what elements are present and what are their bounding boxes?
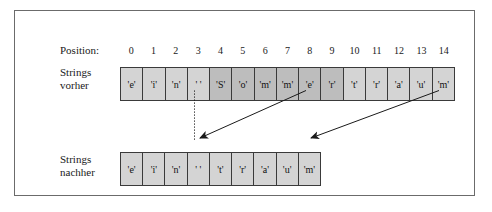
position-index: 14 [433,44,455,58]
position-index: 2 [165,44,187,58]
position-index: 11 [366,44,388,58]
string-cell: 'o' [232,68,254,100]
string-cell: 'S' [210,68,232,100]
strings-after-label: Strings nachher [60,153,95,179]
position-index: 8 [299,44,321,58]
string-cell: 'm' [299,153,320,185]
position-index: 9 [321,44,343,58]
string-cell: 't' [210,153,232,185]
diagram-screenshot: Position: Strings vorher Strings nachher… [0,0,492,212]
position-index: 5 [232,44,254,58]
position-index: 3 [187,44,209,58]
string-cell: 'm' [277,68,299,100]
string-cell: 'n' [165,153,187,185]
string-cell: 'a' [388,68,410,100]
position-index: 12 [388,44,410,58]
string-cell: 'u' [410,68,432,100]
position-index: 6 [254,44,276,58]
string-cell: 'a' [254,153,276,185]
string-cell: 'r' [366,68,388,100]
string-cell: 'r' [321,68,343,100]
position-index: 13 [410,44,432,58]
position-row-label: Position: [60,44,99,57]
string-cell: 'm' [255,68,277,100]
string-cell: 'u' [277,153,299,185]
string-array-before: 'e''i''n'' ''S''o''m''m''e''r''t''r''a''… [120,67,455,101]
position-index-list: 01234567891011121314 [120,44,455,58]
position-index: 0 [120,44,142,58]
string-cell: 't' [344,68,366,100]
position-index: 1 [142,44,164,58]
string-cell: 'i' [143,68,165,100]
string-cell: 'e' [121,153,143,185]
position-index: 10 [343,44,365,58]
position-index: 4 [209,44,231,58]
strings-before-label: Strings vorher [60,66,91,92]
string-cell: 'i' [143,153,165,185]
string-cell: 'e' [299,68,321,100]
string-cell: 'e' [121,68,143,100]
position-index: 7 [276,44,298,58]
diagram-frame: Position: Strings vorher Strings nachher… [14,10,475,196]
string-array-after: 'e''i''n'' ''t''r''a''u''m' [120,152,321,186]
string-cell: ' ' [188,68,210,100]
string-cell: 'm' [433,68,454,100]
string-cell: 'r' [232,153,254,185]
string-cell: 'n' [166,68,188,100]
string-cell: ' ' [188,153,210,185]
